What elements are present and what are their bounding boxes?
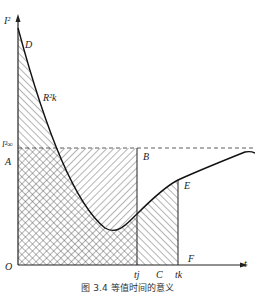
- point-e-label: E: [184, 181, 190, 191]
- origin-label: O: [5, 262, 12, 272]
- point-d-label: D: [25, 40, 32, 50]
- y-axis-arrow-icon: [16, 14, 21, 22]
- curve-label: R²k: [43, 93, 57, 103]
- x-axis-label: t: [244, 259, 247, 269]
- tk-label: tk: [175, 270, 182, 280]
- diagram-canvas: [0, 0, 255, 295]
- y-axis-label: I²: [4, 16, 10, 26]
- dashed-level-label: I²∞: [2, 141, 13, 149]
- point-f-label: F: [188, 254, 194, 264]
- figure-caption: 图 3.4 等值时间的意义: [0, 281, 255, 294]
- tj-label: tj: [134, 270, 140, 280]
- point-b-label: B: [143, 152, 149, 162]
- point-c-label: C: [156, 270, 163, 280]
- point-a-label: A: [5, 157, 11, 167]
